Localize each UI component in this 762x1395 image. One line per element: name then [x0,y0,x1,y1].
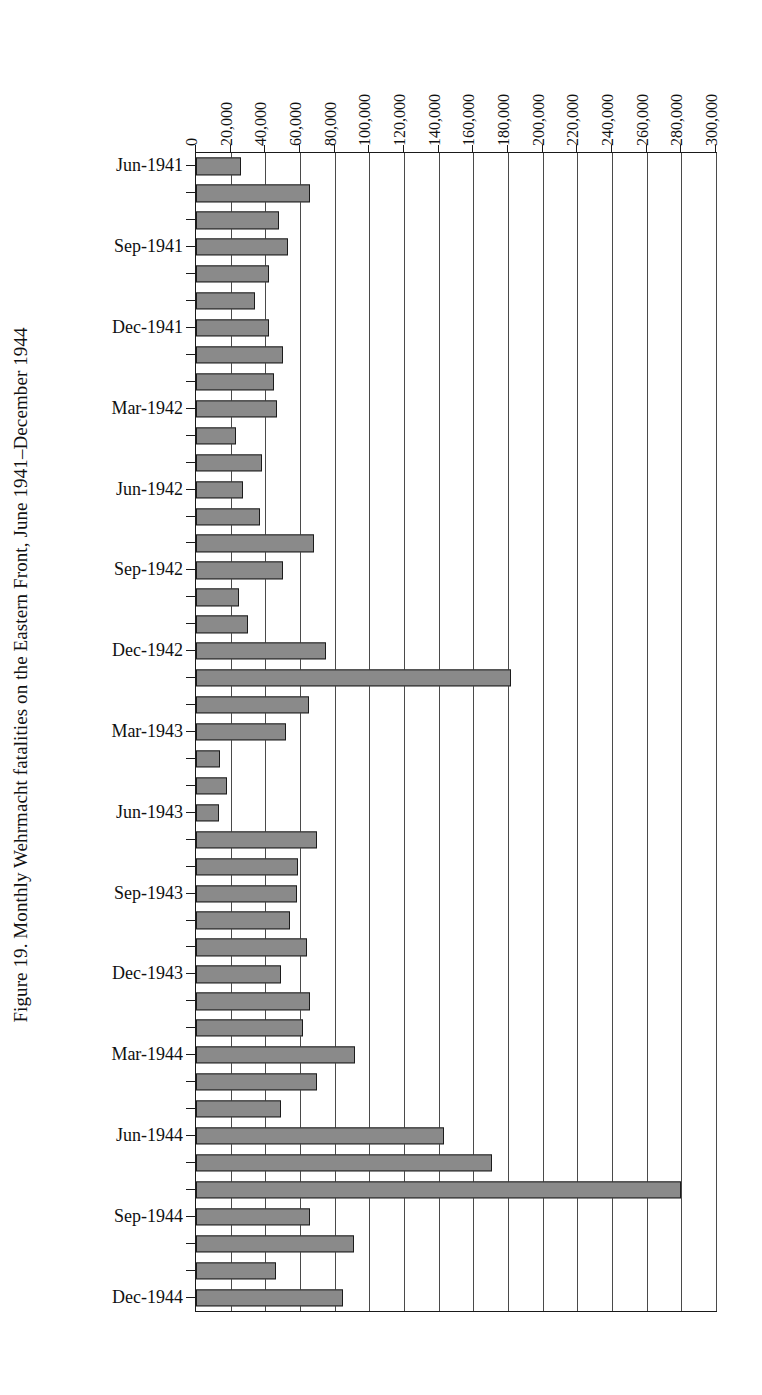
bar[interactable] [196,589,239,606]
bar[interactable] [196,212,279,229]
bar-row [196,665,716,692]
category-axis-tick [186,381,195,382]
bar[interactable] [196,319,269,336]
bar-row [196,503,716,530]
bar[interactable] [196,858,298,875]
bar[interactable] [196,723,286,740]
bar[interactable] [196,1020,303,1037]
bar-row [196,745,716,772]
bar[interactable] [196,993,310,1010]
bar[interactable] [196,1154,492,1171]
bar[interactable] [196,292,255,309]
bar[interactable] [196,454,262,471]
category-axis-label: Jun-1944 [116,1124,183,1145]
bar[interactable] [196,616,248,633]
bar[interactable] [196,346,283,363]
bar-row [196,1015,716,1042]
value-axis-tick [472,145,473,152]
bar[interactable] [196,535,314,552]
bar[interactable] [196,1073,317,1090]
bar-row [196,315,716,342]
bar[interactable] [196,1127,444,1144]
category-axis-tick [186,650,195,651]
bar[interactable] [196,508,260,525]
value-axis-tick-label: 240,000 [599,94,617,146]
bar[interactable] [196,1235,354,1252]
bar[interactable] [196,939,307,956]
figure-container: Figure 19. Monthly Wehrmacht fatalities … [0,0,762,1395]
bar[interactable] [196,562,283,579]
category-axis-tick [186,812,195,813]
category-axis-label: Jun-1942 [116,478,183,499]
category-axis-label: Sep-1944 [114,1205,183,1226]
bar-row [196,422,716,449]
bar[interactable] [196,777,227,794]
bar-row [196,368,716,395]
category-axis-tick [186,704,195,705]
bar-row [196,449,716,476]
bar[interactable] [196,400,277,417]
category-axis-label: Mar-1942 [111,397,183,418]
category-axis-tick [186,946,195,947]
category-axis-tick [186,165,195,166]
category-axis-tick [186,516,195,517]
bar[interactable] [196,185,310,202]
bar[interactable] [196,158,241,175]
category-axis-labels: Jun-1941Sep-1941Dec-1941Mar-1942Jun-1942… [0,0,195,1395]
bar[interactable] [196,966,281,983]
category-axis-tick [186,1189,195,1190]
value-axis-tick [334,145,335,152]
category-axis-tick [186,1270,195,1271]
category-axis-label: Jun-1943 [116,801,183,822]
bar[interactable] [196,1262,276,1279]
bar[interactable] [196,643,326,660]
category-axis-tick [186,1000,195,1001]
bar[interactable] [196,1181,681,1198]
bar[interactable] [196,1047,355,1064]
category-axis-label: Dec-1944 [112,1286,183,1307]
value-axis-tick [646,145,647,152]
value-axis-tick-label: 220,000 [564,94,582,146]
category-axis-tick [186,192,195,193]
category-axis-tick [186,677,195,678]
bar-row [196,395,716,422]
value-axis-tick [576,145,577,152]
bar[interactable] [196,1208,310,1225]
category-axis-label: Dec-1941 [112,317,183,338]
category-axis-tick [186,596,195,597]
bar-row [196,853,716,880]
bar-row [196,692,716,719]
category-axis-label: Sep-1942 [114,559,183,580]
bar-row [196,934,716,961]
bar[interactable] [196,696,309,713]
value-axis-tick-label: 200,000 [530,94,548,146]
category-axis-tick [186,1243,195,1244]
bar[interactable] [196,266,269,283]
bar[interactable] [196,239,288,256]
category-axis-label: Jun-1941 [116,155,183,176]
value-axis-tick-label: 40,000 [252,102,270,146]
category-axis-tick [186,1216,195,1217]
category-axis-tick [186,1081,195,1082]
bar[interactable] [196,912,290,929]
category-axis-tick [186,246,195,247]
bar[interactable] [196,670,511,687]
value-axis-tick-label: 80,000 [322,102,340,146]
bar[interactable] [196,1289,343,1306]
value-axis-tick [438,145,439,152]
category-axis-tick [186,542,195,543]
bar[interactable] [196,1100,281,1117]
bar[interactable] [196,804,219,821]
category-axis-tick [186,785,195,786]
bar[interactable] [196,481,243,498]
bar[interactable] [196,831,317,848]
bar[interactable] [196,885,297,902]
bar[interactable] [196,427,236,444]
category-axis-tick [186,273,195,274]
bar[interactable] [196,373,274,390]
value-axis-tick [507,145,508,152]
bar-row [196,1257,716,1284]
bar[interactable] [196,750,220,767]
category-axis-tick [186,1297,195,1298]
category-axis-tick [186,1162,195,1163]
